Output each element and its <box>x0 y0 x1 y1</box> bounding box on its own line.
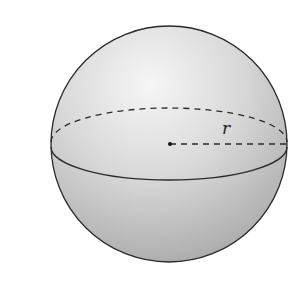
center-point <box>168 142 172 146</box>
sphere-diagram: r <box>0 0 305 283</box>
radius-label: r <box>222 118 231 138</box>
